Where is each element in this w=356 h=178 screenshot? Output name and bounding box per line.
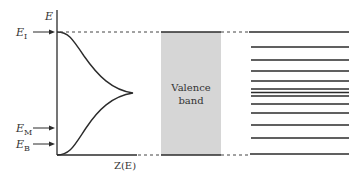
svg-text:EI: EI (15, 26, 27, 41)
arrow-icon (49, 142, 55, 147)
discrete-levels (249, 32, 349, 154)
energy-axis-label: E (44, 10, 53, 23)
marker-EM: EM (15, 122, 55, 137)
valence-band-label-1: Valence (170, 82, 210, 93)
band-diagram: E Z(E) EI EM EB Valence band (0, 0, 356, 178)
svg-text:EB: EB (15, 138, 30, 153)
valence-band (161, 32, 221, 155)
density-axis-label: Z(E) (114, 160, 136, 171)
valence-band-label-2: band (178, 95, 204, 106)
density-of-states-curve (57, 32, 133, 155)
marker-EI: EI (15, 26, 55, 41)
arrow-icon (49, 126, 55, 131)
svg-text:EM: EM (15, 122, 32, 137)
arrow-icon (49, 30, 55, 35)
marker-EB: EB (15, 138, 55, 153)
